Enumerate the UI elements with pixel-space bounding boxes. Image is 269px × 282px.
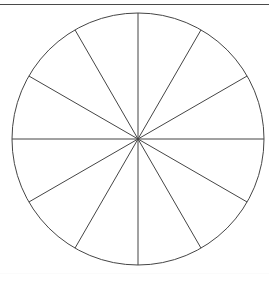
diagram-page	[0, 0, 269, 282]
horizontal-rule-bottom	[0, 273, 269, 274]
sector-circle-figure	[0, 0, 269, 282]
